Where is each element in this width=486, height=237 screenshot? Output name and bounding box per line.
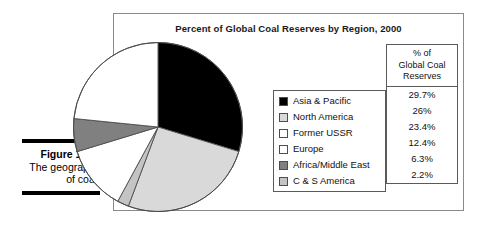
percent-table: % ofGlobal CoalReserves 29.7%26%23.4%12.…: [386, 44, 458, 184]
percent-table-header-line: % of: [389, 48, 455, 60]
legend-item-label: Africa/Middle East: [293, 160, 370, 170]
percent-table-header: % ofGlobal CoalReserves: [387, 45, 457, 87]
legend-item[interactable]: Former USSR: [274, 125, 385, 141]
percent-table-cell: 26%: [387, 103, 457, 119]
chart-legend: Asia & PacificNorth AmericaFormer USSREu…: [273, 90, 386, 192]
legend-item-label: C & S America: [293, 176, 355, 186]
legend-item[interactable]: North America: [274, 109, 385, 125]
legend-item-label: Europe: [293, 144, 324, 154]
percent-table-header-line: Reserves: [389, 71, 455, 83]
legend-item[interactable]: Asia & Pacific: [274, 93, 385, 109]
legend-item[interactable]: Africa/Middle East: [274, 157, 385, 173]
legend-item[interactable]: C & S America: [274, 173, 385, 189]
legend-item-label: North America: [293, 112, 353, 122]
legend-swatch-icon: [279, 97, 288, 106]
legend-swatch-icon: [279, 161, 288, 170]
pie-chart-svg: [72, 41, 244, 213]
percent-table-cell: 23.4%: [387, 119, 457, 135]
legend-swatch-icon: [279, 129, 288, 138]
percent-table-cell: 12.4%: [387, 135, 457, 151]
legend-swatch-icon: [279, 177, 288, 186]
pie-chart: [72, 41, 244, 213]
legend-item-label: Asia & Pacific: [293, 96, 351, 106]
figure-frame: Percent of Global Coal Reserves by Regio…: [113, 13, 464, 211]
legend-item[interactable]: Europe: [274, 141, 385, 157]
percent-table-cell: 2.2%: [387, 167, 457, 183]
pie-slice[interactable]: [74, 43, 158, 128]
legend-item-label: Former USSR: [293, 128, 353, 138]
legend-swatch-icon: [279, 113, 288, 122]
percent-table-cell: 29.7%: [387, 87, 457, 103]
percent-table-cell: 6.3%: [387, 151, 457, 167]
chart-title: Percent of Global Coal Reserves by Regio…: [114, 23, 463, 34]
legend-swatch-icon: [279, 145, 288, 154]
percent-table-header-line: Global Coal: [389, 60, 455, 72]
